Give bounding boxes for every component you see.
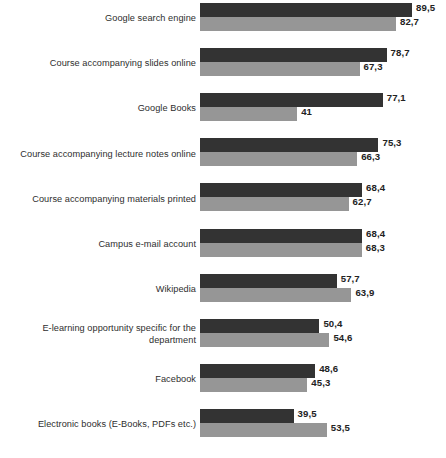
bar-series-1 bbox=[200, 409, 294, 423]
value-label-series-1: 68,4 bbox=[366, 182, 385, 193]
category-label: Facebook bbox=[4, 363, 196, 397]
value-label-series-2: 54,6 bbox=[333, 332, 352, 343]
category-label: Electronic books (E-Books, PDFs etc.) bbox=[4, 408, 196, 442]
chart-row: Google search engine89,582,7 bbox=[0, 2, 446, 40]
chart-row: Campus e-mail account68,468,3 bbox=[0, 228, 446, 266]
bar-series-2 bbox=[200, 152, 357, 166]
bar-series-2 bbox=[200, 62, 360, 76]
chart-row: Google Books77,141 bbox=[0, 92, 446, 130]
bar-series-2 bbox=[200, 378, 307, 392]
value-label-series-2: 66,3 bbox=[361, 151, 380, 162]
category-label: E-learning opportunity specific for the … bbox=[4, 318, 196, 352]
bar-series-1 bbox=[200, 364, 315, 378]
value-label-series-1: 50,4 bbox=[323, 318, 342, 329]
bar-series-2 bbox=[200, 107, 297, 121]
bar-series-2 bbox=[200, 423, 327, 437]
bar-series-1 bbox=[200, 93, 383, 107]
bar-series-1 bbox=[200, 183, 362, 197]
category-label: Course accompanying slides online bbox=[4, 47, 196, 81]
category-label: Google search engine bbox=[4, 2, 196, 36]
bar-series-2 bbox=[200, 288, 351, 302]
category-label: Wikipedia bbox=[4, 273, 196, 307]
chart-row: Course accompanying lecture notes online… bbox=[0, 137, 446, 175]
category-label: Course accompanying materials printed bbox=[4, 182, 196, 216]
value-label-series-1: 78,7 bbox=[391, 47, 410, 58]
bar-series-2 bbox=[200, 243, 362, 257]
chart-row: Wikipedia57,763,9 bbox=[0, 273, 446, 311]
category-label: Campus e-mail account bbox=[4, 228, 196, 262]
bar-series-1 bbox=[200, 319, 319, 333]
value-label-series-2: 45,3 bbox=[311, 377, 330, 388]
value-label-series-2: 67,3 bbox=[364, 61, 383, 72]
bar-series-2 bbox=[200, 17, 396, 31]
horizontal-bar-chart: Google search engine89,582,7Course accom… bbox=[0, 0, 446, 458]
chart-row: Course accompanying slides online78,767,… bbox=[0, 47, 446, 85]
bar-series-1 bbox=[200, 229, 362, 243]
value-label-series-1: 89,5 bbox=[416, 2, 435, 13]
value-label-series-1: 39,5 bbox=[298, 408, 317, 419]
value-label-series-1: 77,1 bbox=[387, 92, 406, 103]
category-label: Course accompanying lecture notes online bbox=[4, 137, 196, 171]
category-label: Google Books bbox=[4, 92, 196, 126]
bar-series-1 bbox=[200, 3, 412, 17]
chart-row: E-learning opportunity specific for the … bbox=[0, 318, 446, 356]
value-label-series-2: 68,3 bbox=[366, 242, 385, 253]
bar-series-2 bbox=[200, 197, 349, 211]
bar-series-1 bbox=[200, 48, 387, 62]
value-label-series-2: 41 bbox=[301, 106, 312, 117]
value-label-series-1: 75,3 bbox=[382, 137, 401, 148]
value-label-series-1: 57,7 bbox=[341, 273, 360, 284]
bar-series-2 bbox=[200, 333, 329, 347]
chart-row: Course accompanying materials printed68,… bbox=[0, 182, 446, 220]
bar-series-1 bbox=[200, 138, 378, 152]
value-label-series-2: 62,7 bbox=[353, 196, 372, 207]
value-label-series-2: 63,9 bbox=[355, 287, 374, 298]
value-label-series-2: 53,5 bbox=[331, 422, 350, 433]
bar-series-1 bbox=[200, 274, 337, 288]
value-label-series-1: 48,6 bbox=[319, 363, 338, 374]
value-label-series-1: 68,4 bbox=[366, 228, 385, 239]
chart-row: Facebook48,645,3 bbox=[0, 363, 446, 401]
chart-row: Electronic books (E-Books, PDFs etc.)39,… bbox=[0, 408, 446, 446]
value-label-series-2: 82,7 bbox=[400, 16, 419, 27]
